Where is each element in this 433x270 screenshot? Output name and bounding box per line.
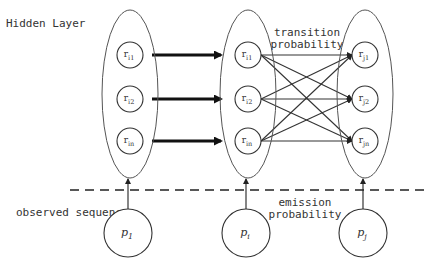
hidden-state-label-subscript: i2 [246,98,252,106]
hidden-state-label-subscript: in [128,140,134,148]
observed-label-subscript: i [247,232,250,241]
observed-label-base: p [121,226,128,239]
emission-label-line2: probability [269,208,342,221]
hidden-state-label-subscript: i2 [128,98,134,106]
observed-label-subscript: 1 [128,232,133,241]
transition-label-line2: probability [271,38,344,51]
diagram-elements: ri1ri2rinri1ri2rinrj1rj2rjnp1pipj [102,10,393,257]
hidden-layer-label: Hidden Layer [6,17,86,30]
hidden-state-label-subscript: j2 [362,98,369,106]
hidden-state-label-subscript: i1 [246,54,252,62]
hmm-diagram: Hidden Layer transition probability emis… [0,0,433,270]
hidden-state-label-subscript: jn [362,140,369,148]
hidden-state-label-subscript: j1 [362,54,369,62]
observed-label-base: p [357,226,364,239]
hidden-state-label-subscript: i1 [128,54,134,62]
hidden-state-label-subscript: in [246,140,252,148]
observed-label-base: p [240,226,247,239]
